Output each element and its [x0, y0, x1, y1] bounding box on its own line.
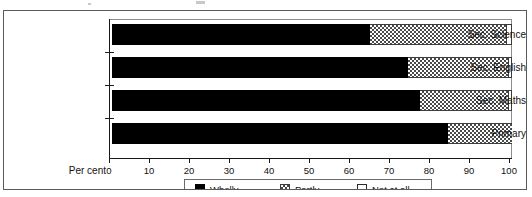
x-axis-tick [149, 158, 150, 163]
x-axis-tick [309, 158, 310, 163]
x-axis-tick [229, 158, 230, 163]
scan-speckle-left [88, 3, 91, 5]
x-axis-tick [269, 158, 270, 163]
plot-top-border [109, 19, 512, 20]
category-tick [105, 85, 114, 86]
x-axis-tick [109, 158, 110, 163]
x-axis-tick-label: 100 [494, 165, 524, 176]
x-axis-tick-label: 10 [134, 165, 164, 176]
x-axis-tick-label: 40 [254, 165, 284, 176]
bar-segment-wholly [112, 123, 448, 144]
legend-item-not-at-all: Not at all [357, 183, 410, 190]
bar-segment-wholly [112, 24, 370, 45]
x-axis-tick-label: 30 [214, 165, 244, 176]
legend-label: Not at all [372, 184, 410, 191]
bar-segment-wholly [112, 57, 408, 78]
x-axis-tick [189, 158, 190, 163]
x-axis-tick-label: 70 [374, 165, 404, 176]
legend-label: Partly [295, 184, 319, 191]
scan-speckle-right [196, 1, 205, 4]
x-axis-tick [469, 158, 470, 163]
legend-item-partly: Partly [280, 183, 319, 190]
grey-checker-swatch-icon [280, 184, 290, 190]
solid-black-swatch-icon [195, 184, 205, 190]
chart-figure: 0102030405060708090100 Sec. Science Sec.… [3, 10, 527, 190]
x-axis-tick-label: 20 [174, 165, 204, 176]
x-axis-tick [389, 158, 390, 163]
x-axis-tick [509, 158, 510, 163]
bar-segment-wholly [112, 90, 420, 111]
category-axis-line [109, 158, 512, 159]
x-axis-tick-label: 60 [334, 165, 364, 176]
value-axis-line [109, 19, 110, 159]
white-outline-swatch-icon [357, 184, 367, 190]
axis-title-per-cent: Per cent [14, 165, 106, 176]
category-label-sec-english: Sec. English [431, 62, 526, 73]
legend-item-wholly: Wholly [195, 183, 239, 190]
x-axis-tick-label: 90 [454, 165, 484, 176]
category-label-sec-science: Sec. Science [431, 29, 526, 40]
category-label-sec-maths: Sec. Maths [431, 95, 526, 106]
category-tick [105, 52, 114, 53]
x-axis-tick-label: 80 [414, 165, 444, 176]
x-axis-tick-label: 50 [294, 165, 324, 176]
x-axis-tick [349, 158, 350, 163]
category-tick [105, 118, 114, 119]
category-label-primary: Primary [431, 128, 526, 139]
legend-label: Wholly [210, 184, 239, 191]
x-axis-tick [429, 158, 430, 163]
chart-legend: Wholly Partly Not at all [184, 179, 432, 190]
